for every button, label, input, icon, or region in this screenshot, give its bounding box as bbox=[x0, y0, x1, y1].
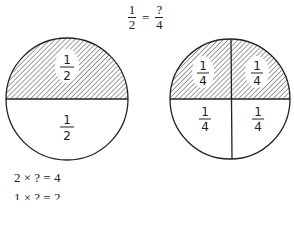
equation-line-2: 1 × ? = 2 bbox=[14, 190, 60, 200]
label-numerator: 1 bbox=[63, 113, 71, 127]
label-numerator: 1 bbox=[201, 105, 209, 119]
label-denominator: 4 bbox=[199, 74, 207, 88]
label-denominator: 4 bbox=[254, 120, 262, 134]
label-denominator: 4 bbox=[201, 120, 209, 134]
label-numerator: 1 bbox=[63, 53, 71, 67]
shaded-quarters bbox=[170, 39, 290, 99]
label-denominator: 4 bbox=[253, 74, 261, 88]
label-numerator: 1 bbox=[253, 59, 261, 73]
quarters-circle bbox=[170, 39, 290, 159]
label-numerator: 1 bbox=[254, 105, 262, 119]
label-denominator: 2 bbox=[63, 129, 71, 143]
label-numerator: 1 bbox=[199, 59, 207, 73]
equation-line-1: 2 × ? = 4 bbox=[14, 170, 60, 186]
label-denominator: 2 bbox=[63, 69, 71, 83]
